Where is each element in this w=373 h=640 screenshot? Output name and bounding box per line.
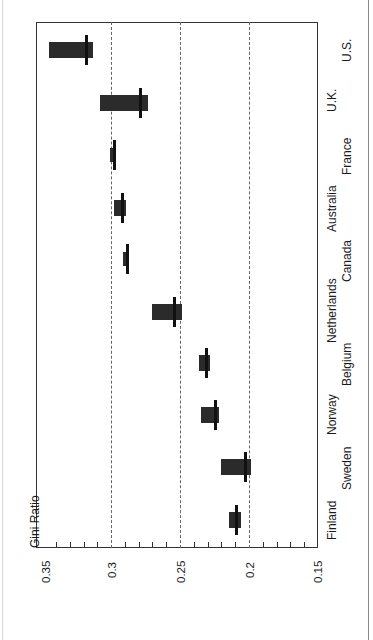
marker-belgium [205, 348, 208, 378]
axis-tick [139, 542, 140, 548]
category-label-france: France [340, 138, 354, 175]
marker-us [85, 35, 88, 65]
category-label-belgium: Belgium [340, 343, 354, 386]
tick-label-0-35: 0.35 [40, 561, 52, 583]
page-edge-right [368, 0, 369, 640]
marker-australia [121, 193, 124, 223]
category-label-canada: Canada [340, 240, 354, 282]
marker-netherlands [173, 297, 176, 327]
axis-tick [235, 542, 236, 548]
marker-norway [214, 400, 217, 430]
tick-label-0-15: 0.15 [312, 561, 324, 583]
range-bar-netherlands [152, 304, 182, 320]
axis-tick [84, 542, 85, 548]
tick-label-0-3: 0.3 [106, 562, 118, 578]
category-label-finland: Finland [325, 501, 339, 540]
category-label-netherlands: Netherlands [325, 278, 339, 343]
tick-label-0-2: 0.2 [244, 562, 256, 578]
marker-france [113, 140, 116, 170]
axis-tick [97, 542, 98, 548]
axis-tick [263, 542, 264, 548]
marker-canada [126, 244, 129, 274]
axis-tick [194, 542, 195, 548]
axis-tick [277, 542, 278, 548]
axis-tick [56, 542, 57, 548]
category-label-australia: Australia [325, 185, 339, 232]
marker-sweden [244, 452, 247, 482]
axis-tick [290, 542, 291, 548]
category-label-sweden: Sweden [340, 447, 354, 490]
plot-area [36, 22, 318, 548]
category-label-uk: U.K. [325, 89, 339, 112]
marker-uk [139, 88, 142, 118]
gridline-0-25 [180, 22, 181, 548]
axis-tick [152, 542, 153, 548]
axis-tick [208, 542, 209, 548]
range-bar-australia [114, 200, 126, 216]
axis-tick [166, 542, 167, 548]
category-label-norway: Norway [325, 394, 339, 435]
axis-tick [70, 542, 71, 548]
axis-tick [125, 542, 126, 548]
axis-tick [221, 542, 222, 548]
marker-finland [235, 505, 238, 535]
tick-label-0-25: 0.25 [175, 561, 187, 583]
axis-title: Gini Ratio [28, 495, 42, 548]
axis-tick [304, 542, 305, 548]
page-edge-left [2, 0, 3, 640]
category-label-us: U.S. [340, 39, 354, 62]
